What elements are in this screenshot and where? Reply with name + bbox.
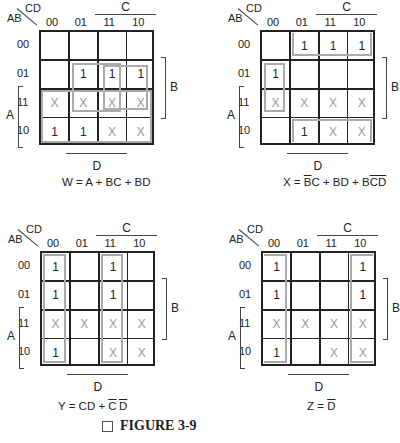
prime-implicant-group: [350, 254, 373, 363]
equation-terms: CD +: [79, 400, 109, 412]
kmap-cell: [40, 60, 69, 89]
bracket-b-tick: [382, 118, 387, 119]
kmap-cell: [40, 31, 69, 60]
bracket-c-line: [316, 14, 378, 15]
equation-output: Z: [307, 400, 314, 412]
equation-term-complemented: D: [327, 400, 335, 412]
bracket-a-tick: [240, 307, 245, 308]
kmap-cell: X: [127, 338, 156, 367]
prime-implicant-group: [101, 254, 124, 363]
boolean-equation: X = BC + BD + BCD: [283, 176, 386, 188]
col-label: 01: [76, 237, 88, 249]
kmap-cell: [70, 281, 99, 310]
bracket-d-line: [288, 374, 350, 375]
kmap-cell: X: [320, 338, 349, 367]
col-label: 00: [46, 16, 58, 28]
col-label: 01: [75, 16, 87, 28]
equation-output: X: [283, 176, 291, 188]
equation-term-complemented: CD: [370, 176, 387, 188]
bracket-a-tick: [18, 147, 23, 148]
bracket-a-label: A: [7, 329, 15, 343]
bracket-b-tick: [383, 339, 388, 340]
corner-col-var: CD: [247, 223, 263, 235]
kmap-cell: [320, 252, 349, 281]
bracket-a-line: [19, 307, 20, 369]
bracket-d-line: [287, 153, 349, 154]
prime-implicant-group: [292, 33, 372, 56]
equation-terms: C + BD + B: [311, 176, 369, 188]
bracket-b-tick: [162, 278, 167, 279]
bracket-c-line: [317, 235, 379, 236]
row-label: 01: [238, 67, 250, 79]
col-label: 11: [325, 16, 336, 28]
bracket-d-line: [66, 153, 128, 154]
kmap-cell: [127, 281, 156, 310]
bracket-a-label: A: [6, 108, 14, 122]
kmap-cell: [290, 60, 319, 89]
equation-equals: =: [65, 400, 78, 412]
bracket-a-line: [240, 307, 241, 369]
bracket-b-label: B: [171, 301, 179, 315]
equation-terms: A + BC + BD: [85, 176, 150, 188]
bracket-b-line: [387, 278, 388, 340]
kmap-cell: [70, 338, 99, 367]
kmap-cell: X: [127, 310, 156, 339]
figure-caption: FIGURE 3-9: [102, 418, 197, 434]
kmap-cell: X: [290, 89, 319, 118]
kmap-cell: X: [319, 89, 348, 118]
col-label: 10: [354, 237, 366, 249]
bracket-a-label: A: [228, 329, 236, 343]
kmap-cell: [261, 31, 290, 60]
boolean-equation: W = A + BC + BD: [62, 176, 151, 188]
col-label: 01: [297, 237, 309, 249]
bracket-b-tick: [382, 57, 387, 58]
kmap-cell: [70, 252, 99, 281]
row-label: 01: [239, 288, 251, 300]
bracket-b-label: B: [392, 301, 400, 315]
corner-row-var: AB: [7, 12, 22, 24]
equation-term-complemented: D: [119, 400, 127, 412]
prime-implicant-group: [264, 254, 287, 363]
bracket-c-label: C: [121, 0, 130, 14]
col-label: 11: [105, 237, 116, 249]
col-label: 10: [132, 16, 144, 28]
corner-row-var: AB: [228, 12, 243, 24]
row-label: 01: [17, 67, 29, 79]
corner-col-var: CD: [25, 2, 41, 14]
corner-row-var: AB: [8, 233, 23, 245]
bracket-d-label: D: [314, 159, 323, 173]
bracket-d-label: D: [93, 159, 102, 173]
kmap-cell: [291, 252, 320, 281]
prime-implicant-group: [264, 63, 285, 113]
row-label: 01: [18, 288, 30, 300]
col-label: 00: [267, 16, 279, 28]
bracket-c-line: [96, 235, 158, 236]
bracket-d-label: D: [94, 380, 103, 394]
bracket-a-tick: [19, 368, 24, 369]
caption-label: FIGURE 3-9: [120, 418, 197, 434]
equation-equals: =: [73, 176, 85, 188]
bracket-b-line: [165, 57, 166, 119]
prime-implicant-group: [43, 254, 66, 363]
bracket-b-tick: [161, 118, 166, 119]
bracket-c-label: C: [343, 221, 352, 235]
bracket-b-tick: [383, 278, 388, 279]
kmap-cell: [127, 252, 156, 281]
col-label: 00: [268, 237, 280, 249]
bracket-b-label: B: [391, 80, 399, 94]
col-label: 10: [353, 16, 365, 28]
bracket-a-tick: [239, 147, 244, 148]
bracket-a-line: [18, 86, 19, 148]
bracket-a-tick: [239, 86, 244, 87]
bracket-a-tick: [19, 307, 24, 308]
row-label: 00: [17, 38, 29, 50]
col-label: 01: [296, 16, 308, 28]
caption-box-icon: [102, 421, 113, 432]
kmap-cell: X: [70, 310, 99, 339]
bracket-d-label: D: [315, 380, 324, 394]
col-label: 00: [47, 237, 59, 249]
kmap-cell: [98, 31, 127, 60]
bracket-a-label: A: [227, 108, 235, 122]
prime-implicant-group: [103, 65, 149, 111]
kmap-cell: [319, 60, 348, 89]
